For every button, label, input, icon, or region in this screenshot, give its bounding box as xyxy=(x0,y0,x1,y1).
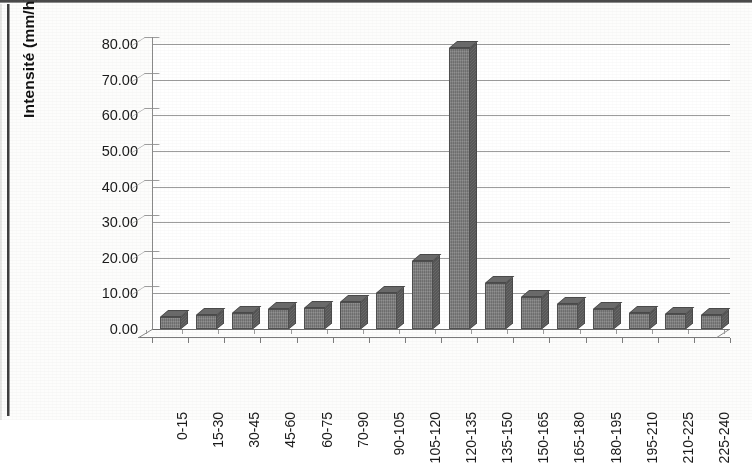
y-axis-tick-label: 40.00 xyxy=(76,180,138,195)
bar-front-face xyxy=(449,48,470,329)
x-axis-tick-mark xyxy=(622,338,623,343)
y-axis-tick-label: 20.00 xyxy=(76,251,138,266)
x-axis-base-tick xyxy=(399,330,400,334)
x-axis-base-tick xyxy=(291,330,292,334)
bar-front-face xyxy=(304,308,325,329)
bar-front-face xyxy=(557,304,578,329)
bar xyxy=(376,293,397,329)
x-axis-base-tick xyxy=(146,330,147,334)
bar-front-face xyxy=(340,302,361,329)
x-axis-base-tick xyxy=(688,330,689,334)
x-axis-line xyxy=(152,329,730,330)
y-axis-tick-label: 80.00 xyxy=(76,37,138,52)
bar xyxy=(449,48,470,329)
y-axis-tick-label: 10.00 xyxy=(76,286,138,301)
bar xyxy=(160,317,181,329)
x-axis-tick-label: 165-180 xyxy=(572,412,586,463)
x-axis-tick-label: 105-120 xyxy=(428,412,442,463)
bar-front-face xyxy=(701,315,722,329)
bar-series xyxy=(152,44,730,329)
x-axis-base-tick xyxy=(218,330,219,334)
bar-front-face xyxy=(160,317,181,329)
x-axis-base-tick xyxy=(616,330,617,334)
x-axis-tick-label: 150-165 xyxy=(536,412,550,463)
x-axis-tick-label: 135-150 xyxy=(500,412,514,463)
x-axis-tick-mark xyxy=(441,338,442,343)
x-axis-base-tick xyxy=(471,330,472,334)
x-axis-tick-mark xyxy=(297,338,298,343)
x-axis-tick-label: 45-60 xyxy=(283,412,297,448)
x-axis-tick-mark xyxy=(260,338,261,343)
bar-front-face xyxy=(521,297,542,329)
bar-front-face xyxy=(376,293,397,329)
y-axis-tick-label: 0.00 xyxy=(76,322,138,337)
x-axis-base-tick xyxy=(652,330,653,334)
bar xyxy=(701,315,722,329)
x-axis-tick-label: 70-90 xyxy=(356,412,370,448)
x-axis-tick-labels: 0-1515-3030-4545-6060-7570-9090-105105-1… xyxy=(152,346,730,420)
x-axis-base-tick xyxy=(363,330,364,334)
x-axis-base-tick xyxy=(580,330,581,334)
y-axis-tick-labels: 80.0070.0060.0050.0040.0030.0020.0010.00… xyxy=(76,0,138,420)
x-axis-tick-mark xyxy=(549,338,550,343)
x-axis-base-tick xyxy=(254,330,255,334)
x-axis-base-tick xyxy=(182,330,183,334)
bar-side-face xyxy=(542,291,549,329)
bar-side-face xyxy=(397,288,404,329)
bar-front-face xyxy=(268,309,289,329)
y-axis-tick-label: 50.00 xyxy=(76,144,138,159)
bar xyxy=(521,297,542,329)
y-axis-tick-label: 30.00 xyxy=(76,215,138,230)
y-axis-tick-label: 60.00 xyxy=(76,108,138,123)
x-axis-base-tick xyxy=(507,330,508,334)
bar-side-face xyxy=(506,277,513,329)
bar xyxy=(593,309,614,329)
x-axis-tick-mark xyxy=(513,338,514,343)
x-axis-tick-mark xyxy=(694,338,695,343)
y-axis-tick-label: 70.00 xyxy=(76,73,138,88)
bar-front-face xyxy=(485,283,506,329)
bar xyxy=(557,304,578,329)
x-axis-tick-mark xyxy=(405,338,406,343)
bar-front-face xyxy=(593,309,614,329)
x-axis-base-tick xyxy=(435,330,436,334)
x-axis-tick-mark xyxy=(152,338,153,343)
x-axis-base-tick xyxy=(543,330,544,334)
x-axis-tick-mark xyxy=(586,338,587,343)
x-axis-tick-mark xyxy=(658,338,659,343)
bar xyxy=(485,283,506,329)
x-axis-tick-mark xyxy=(333,338,334,343)
bar xyxy=(196,315,217,329)
bar xyxy=(665,314,686,329)
x-axis-tick-mark xyxy=(730,338,731,343)
bar xyxy=(268,309,289,329)
x-axis-tick-label: 60-75 xyxy=(320,412,334,448)
x-axis-base-tick xyxy=(327,330,328,334)
bar-front-face xyxy=(629,313,650,329)
bar-front-face xyxy=(196,315,217,329)
x-axis-tick-label: 210-225 xyxy=(681,412,695,463)
bar-side-face xyxy=(361,296,368,329)
x-axis-tick-label: 30-45 xyxy=(247,412,261,448)
x-axis-tick-mark xyxy=(188,338,189,343)
x-axis-tick-label: 15-30 xyxy=(211,412,225,448)
x-axis-tick-mark xyxy=(477,338,478,343)
x-axis-tick-label: 195-210 xyxy=(645,412,659,463)
bar xyxy=(304,308,325,329)
x-axis-tick-label: 225-240 xyxy=(717,412,731,463)
bar-front-face xyxy=(412,261,433,329)
bar-front-face xyxy=(665,314,686,329)
chart-floor-front-edge xyxy=(138,337,730,338)
bar xyxy=(232,313,253,329)
bar-front-face xyxy=(232,313,253,329)
x-axis-tick-label: 120-135 xyxy=(464,412,478,463)
x-axis-base-tick xyxy=(724,330,725,334)
bar xyxy=(340,302,361,329)
x-axis-tick-label: 180-195 xyxy=(609,412,623,463)
bar-side-face xyxy=(433,255,440,329)
bar xyxy=(629,313,650,329)
x-axis-tick-mark xyxy=(224,338,225,343)
x-axis-tick-label: 0-15 xyxy=(175,412,189,440)
